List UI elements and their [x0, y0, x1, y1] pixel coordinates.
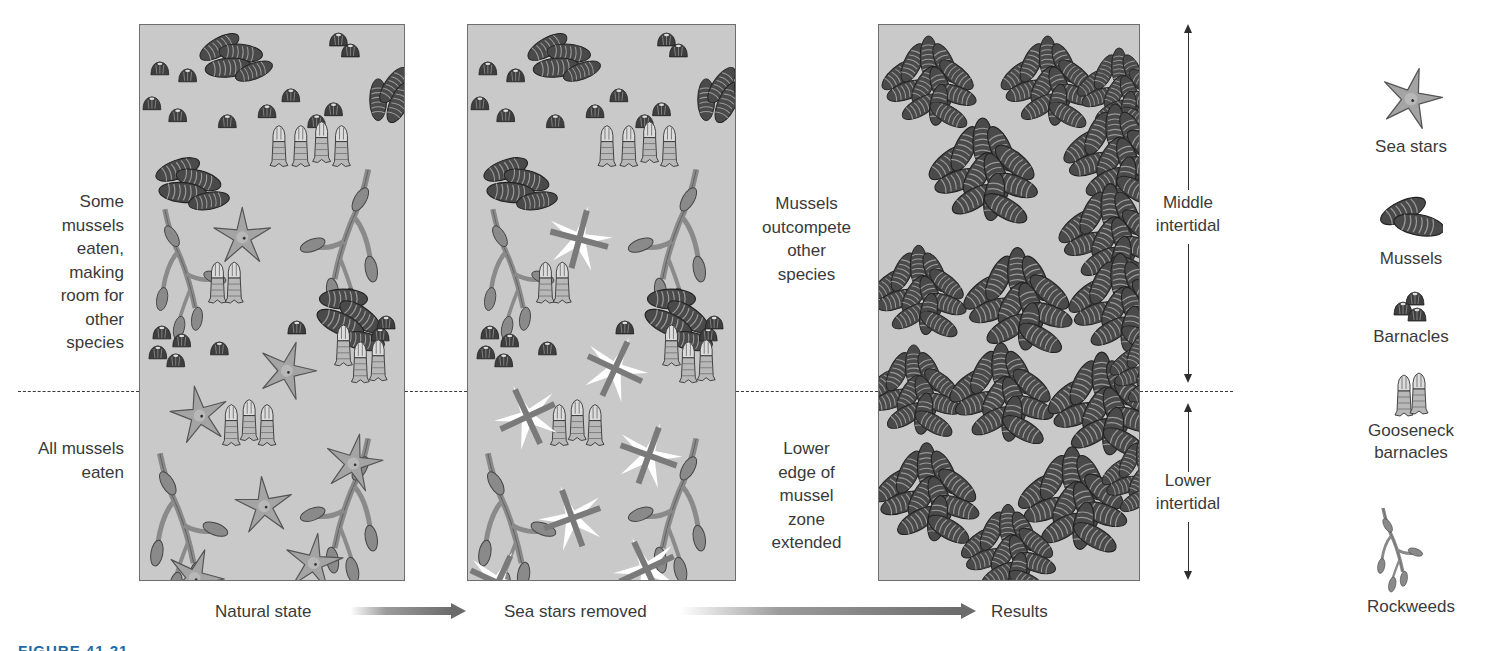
gooseneck-barnacle: [222, 405, 240, 446]
barnacle: [481, 326, 499, 339]
barnacle: [258, 105, 276, 118]
rockweed-icon: [1371, 508, 1451, 596]
gooseneck-barnacle: [1395, 375, 1413, 416]
barnacle: [210, 342, 228, 355]
mussel-cluster: [193, 25, 276, 92]
gooseneck-barnacle: [661, 126, 679, 167]
figure-caption: FIGURE 41.21: [18, 642, 128, 651]
zone-boundary-line-mid2: [736, 391, 878, 392]
rockweed: [477, 453, 558, 580]
middle-intertidal-label: Middleintertidal: [1133, 191, 1243, 237]
barnacle: [377, 316, 395, 329]
zone-line: [1188, 410, 1189, 472]
mussel-bed: [879, 36, 979, 132]
legend-item-rockweeds: Rockweeds: [1346, 508, 1476, 618]
barnacle: [546, 115, 564, 128]
mussel-bed: [879, 443, 982, 549]
gooseneck-barnacle: [208, 262, 226, 303]
flow-arrow-icon: [350, 603, 466, 619]
lower-intertidal-label: Lowerintertidal: [1133, 469, 1243, 515]
sea-star-icon: [1376, 62, 1446, 136]
sea-stars-removed-illustration: [468, 25, 735, 580]
panel-results: [878, 24, 1140, 581]
barnacle: [143, 97, 161, 110]
barnacle: [330, 33, 348, 46]
removed-sea-star: [531, 475, 613, 557]
gooseneck-barnacle: [586, 405, 604, 446]
panel-sea-stars-removed: [467, 24, 736, 581]
arrow-down-icon: [1184, 374, 1192, 383]
barnacle: [477, 346, 495, 359]
barnacle: [653, 103, 671, 116]
legend-item-sea-stars: Sea stars: [1346, 62, 1476, 158]
barnacle: [495, 354, 513, 367]
note-mussels-outcompete: Musselsoutcompeteotherspecies: [744, 192, 869, 286]
barnacle: [538, 342, 556, 355]
barnacle: [151, 62, 169, 75]
barnacle: [149, 346, 167, 359]
barnacle: [167, 354, 185, 367]
barnacle: [616, 321, 634, 334]
gooseneck-barnacle: [240, 400, 258, 441]
mussel-cluster: [684, 49, 735, 134]
removed-sea-star: [573, 324, 658, 409]
sea-star: [233, 474, 294, 533]
zone-line: [1188, 522, 1189, 572]
mussel-bed: [1064, 253, 1139, 359]
sea-star: [167, 381, 232, 444]
gooseneck-barnacle: [1410, 373, 1428, 414]
gooseneck-barnacle: [568, 400, 586, 441]
barnacle: [610, 89, 628, 102]
gooseneck-barnacle: [536, 262, 554, 303]
zone-boundary-line-mid1: [405, 391, 467, 392]
gooseneck-barnacle: [598, 126, 616, 167]
zone-boundary-line-left: [18, 391, 139, 392]
barnacle: [325, 103, 343, 116]
gooseneck-barnacle: [333, 126, 351, 167]
mussel-cluster: [521, 25, 604, 92]
mussel-cluster: [153, 153, 231, 213]
barnacle: [471, 97, 489, 110]
barnacle: [497, 109, 515, 122]
mussel-bed: [879, 245, 969, 341]
note-some-mussels-eaten: Somemusselseaten,makingroom forotherspec…: [12, 190, 124, 355]
barnacle: [179, 69, 197, 82]
gooseneck-barnacle: [553, 262, 571, 303]
gooseneck-barnacle: [225, 262, 243, 303]
mussel-bed: [959, 247, 1075, 358]
step-sea-stars-removed: Sea stars removed: [504, 602, 647, 622]
arrow-down-icon: [1184, 571, 1192, 580]
sea-star: [253, 334, 323, 403]
mussel-bed: [945, 343, 1056, 449]
barnacle: [705, 316, 723, 329]
mussel-cluster: [356, 49, 404, 134]
barnacle: [507, 69, 525, 82]
barnacle: [288, 321, 306, 334]
natural-state-illustration: [140, 25, 404, 580]
results-illustration: [879, 25, 1139, 580]
rockweed: [1377, 508, 1424, 593]
barnacle: [479, 62, 497, 75]
gooseneck-barnacle: [270, 126, 288, 167]
legend-item-mussels: Mussels: [1346, 190, 1476, 270]
panel-natural-state: [139, 24, 405, 581]
barnacle-icon: [1389, 290, 1433, 326]
removed-sea-star: [540, 198, 618, 276]
removed-sea-star: [608, 413, 690, 495]
gooseneck-barnacle: [620, 126, 638, 167]
rockweed: [149, 453, 230, 580]
sea-star: [214, 207, 271, 261]
zone-boundary-line-right: [1140, 391, 1233, 392]
barnacle: [1406, 292, 1424, 305]
mussel-icon: [1379, 190, 1443, 248]
note-lower-edge-extended: Loweredge ofmusselzoneextended: [744, 437, 869, 555]
gooseneck-barnacle: [292, 126, 310, 167]
step-results: Results: [991, 602, 1048, 622]
mussel-bed: [924, 118, 1040, 229]
sea-star: [1376, 62, 1446, 131]
barnacle: [282, 89, 300, 102]
flow-arrow-icon: [680, 603, 976, 619]
gooseneck-barnacle-icon: [1389, 366, 1433, 420]
note-all-mussels-eaten: All musselseaten: [6, 437, 124, 484]
gooseneck-barnacle: [258, 405, 276, 446]
